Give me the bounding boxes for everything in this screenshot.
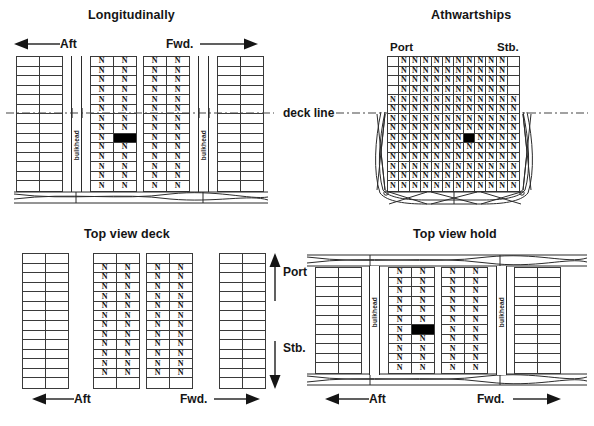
athwartships-hull — [297, 0, 594, 213]
top-view-deck-fwd-label: Fwd. — [180, 392, 207, 406]
panel-top-view-hold: Top view hold NNNNNNNNNNNNNNNNNNNNN NNNN… — [297, 213, 594, 426]
top-view-deck-arrows — [0, 213, 297, 426]
panel-athwartships: Athwartships Port Stb. NNNNNNNNNNNNNNNNN… — [297, 0, 594, 213]
top-view-hold-aft-label: Aft — [369, 392, 386, 406]
panel-longitudinally: Longitudinally Aft Fwd. NNNNNNNNNNNNNNNN… — [0, 0, 297, 213]
panel-top-view-deck: Top view deck NNNNNNNNNNNNNNNNNNNNNNNN N… — [0, 213, 297, 426]
top-view-deck-aft-label: Aft — [74, 392, 91, 406]
top-view-hold-arrows — [297, 213, 594, 426]
top-view-hold-fwd-label: Fwd. — [477, 392, 504, 406]
longitudinally-hull — [0, 0, 297, 213]
